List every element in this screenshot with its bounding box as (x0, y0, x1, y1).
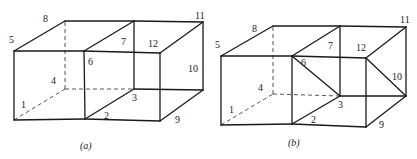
edge-1-2 (14, 119, 85, 120)
node-label-5: 5 (9, 34, 14, 45)
edge-5-8 (14, 21, 65, 51)
node-label-8: 8 (252, 23, 257, 34)
edge-2-3 (292, 96, 340, 124)
edge-7-11 (340, 26, 406, 27)
edge-2-9 (85, 119, 160, 121)
node-label-12: 12 (356, 42, 366, 53)
edge-2-3 (85, 89, 134, 119)
node-label-10: 10 (188, 63, 198, 74)
edge-9-10 (366, 96, 406, 127)
cube-diagrams: 123456789101112(a) 123456789101112(b) (0, 0, 417, 159)
edge-3-10 (134, 89, 203, 90)
diagonal-edge-6-3 (292, 56, 340, 96)
figure-caption: (b) (288, 137, 300, 149)
node-label-1: 1 (21, 99, 26, 110)
figure-b-two-cubes-with-diagonals: 123456789101112(b) (215, 14, 410, 149)
node-label-12: 12 (148, 38, 158, 49)
node-label-3: 3 (338, 99, 343, 110)
node-label-1: 1 (229, 104, 234, 115)
node-label-11: 11 (400, 14, 410, 25)
node-label-6: 6 (88, 56, 93, 67)
edge-7-11 (134, 21, 203, 22)
node-label-4: 4 (258, 82, 263, 93)
edge-5-8 (221, 26, 273, 56)
node-label-8: 8 (43, 13, 48, 24)
figure-caption: (a) (80, 140, 92, 152)
hidden-edge-4-3 (273, 94, 340, 96)
node-label-6: 6 (301, 57, 306, 68)
node-label-9: 9 (379, 119, 384, 130)
edge-2-9 (292, 124, 366, 127)
edge-1-2 (221, 124, 292, 125)
edge-6-2 (84, 51, 85, 119)
node-label-5: 5 (215, 39, 220, 50)
node-label-4: 4 (51, 75, 56, 86)
node-label-2: 2 (311, 114, 316, 125)
edge-6-12 (84, 51, 160, 53)
edge-12-11 (160, 22, 203, 53)
node-label-11: 11 (195, 10, 205, 21)
edge-6-7 (84, 21, 134, 51)
node-label-3: 3 (132, 92, 137, 103)
node-label-7: 7 (121, 36, 126, 47)
node-label-9: 9 (175, 114, 180, 125)
node-label-10: 10 (392, 71, 402, 82)
edge-12-11 (366, 27, 406, 58)
node-label-7: 7 (328, 40, 333, 51)
node-label-2: 2 (104, 110, 109, 121)
edge-9-10 (160, 90, 203, 121)
figure-a-two-cubes: 123456789101112(a) (9, 10, 205, 152)
